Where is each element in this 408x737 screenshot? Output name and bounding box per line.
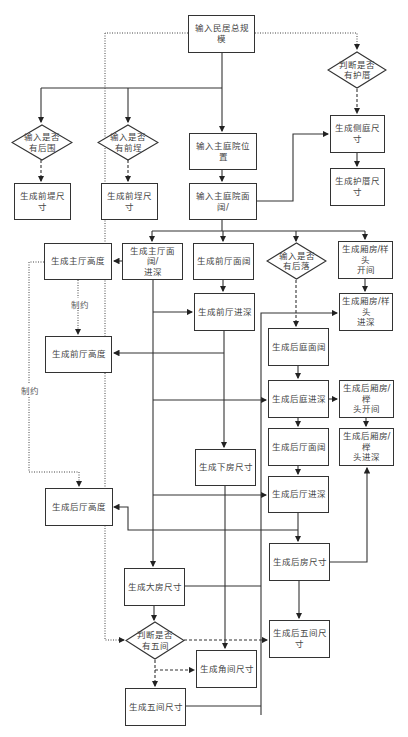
node-rear-room-size: 生成后房尺寸 xyxy=(269,543,330,581)
node-wing-depth: 生成厢房/样头 进深 xyxy=(339,293,393,331)
node-rear-five-bay-size: 生成后五间尺寸 xyxy=(269,620,330,658)
node-rear-court-depth: 生成后庭进深 xyxy=(268,380,329,418)
node-rear-wing-bay: 生成后厢房/榉 头开间 xyxy=(339,380,394,418)
node-main-hall-width-depth: 生成主厅面阔/ 进深 xyxy=(122,243,183,280)
node-main-court-position: 输入主庭院位置 xyxy=(189,133,257,170)
decision-label: 输入是否 有前埕 xyxy=(110,132,146,152)
node-front-hall-depth: 生成前厅进深 xyxy=(194,293,255,331)
decision-has-qiancheng: 输入是否 有前埕 xyxy=(97,124,159,161)
node-qiancheng-size: 生成前埕尺寸 xyxy=(101,183,158,220)
decision-has-hucuo: 判断是否 有护厝 xyxy=(327,51,387,89)
node-rear-hall-depth: 生成后厅进深 xyxy=(268,476,329,513)
decision-has-houluo: 输入是否 有后落 xyxy=(266,242,327,280)
decision-has-five-bay: 判断是否 有五间 xyxy=(125,621,185,660)
node-wing-bay: 生成厢房/样头 开间 xyxy=(338,241,393,279)
node-total-scale: 输入民居总规模 xyxy=(188,15,255,53)
node-five-bay-size: 生成五间尺寸 xyxy=(125,688,186,726)
decision-label: 输入是否 有后落 xyxy=(279,251,315,271)
decision-label: 判断是否 有护厝 xyxy=(339,60,375,80)
decision-label: 输入是否 有后围 xyxy=(24,132,60,152)
decision-has-houwei: 输入是否 有后围 xyxy=(11,124,73,161)
node-big-room-size: 生成大房尺寸 xyxy=(124,568,185,606)
node-hucuo-size: 生成护厝尺寸 xyxy=(330,168,385,206)
node-main-hall-height: 生成主厅高度 xyxy=(44,243,112,280)
node-rear-hall-height: 生成后厅高度 xyxy=(45,488,113,526)
decision-label: 判断是否 有五间 xyxy=(137,630,173,650)
node-rear-court-width: 生成后庭面阔 xyxy=(268,328,329,366)
node-main-court-width: 输入主庭院面 阔/ xyxy=(189,183,257,220)
node-corner-room-size: 生成角间尺寸 xyxy=(196,650,257,688)
node-rear-wing-depth: 生成后厢房/榉 头进深 xyxy=(339,428,394,466)
node-lower-room-size: 生成下房尺寸 xyxy=(195,449,256,486)
node-side-court-size: 生成侧庭尺寸 xyxy=(330,115,385,153)
constraint-label-main-front: 制约 xyxy=(70,298,90,310)
node-rear-hall-width: 生成后厅面阔 xyxy=(268,428,329,466)
constraint-label-main-rear: 制约 xyxy=(20,384,40,396)
node-qiandi-size: 生成前堤尺寸 xyxy=(14,183,71,220)
node-front-hall-width: 生成前厅面阔 xyxy=(193,243,254,280)
node-front-hall-height: 生成前厅高度 xyxy=(45,336,112,373)
